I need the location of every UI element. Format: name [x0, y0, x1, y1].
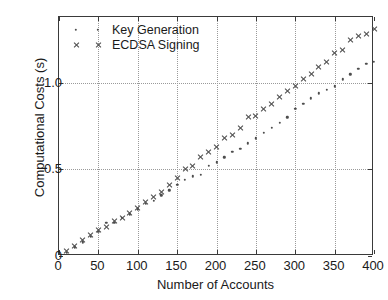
- data-point: [349, 73, 351, 75]
- x-tick-label: 250: [244, 258, 266, 273]
- data-point: [300, 76, 307, 83]
- x-axis-tick: [295, 17, 296, 21]
- y-axis-tick: [368, 169, 372, 170]
- data-point: [278, 121, 280, 123]
- gridline-horizontal: [59, 83, 372, 84]
- x-axis-tick: [335, 17, 336, 21]
- data-point: [333, 85, 335, 87]
- chart-figure: Key Generation ECDSA Signing Number of A…: [0, 0, 388, 300]
- x-tick-label: 350: [323, 258, 345, 273]
- data-point: [221, 135, 228, 142]
- data-point: [286, 116, 288, 118]
- y-axis-tick: [368, 256, 372, 257]
- x-axis-tick: [335, 250, 336, 254]
- x-tick-label: 400: [362, 258, 384, 273]
- gridline-horizontal: [59, 169, 372, 170]
- x-axis-tick: [177, 250, 178, 254]
- data-point: [182, 166, 189, 173]
- x-axis-tick: [374, 17, 375, 21]
- data-point: [294, 108, 296, 110]
- data-point: [347, 36, 354, 43]
- x-tick-label: 100: [126, 258, 148, 273]
- y-tick-label: 1.0: [44, 74, 62, 89]
- x-tick-label: 300: [283, 258, 305, 273]
- data-point: [252, 112, 259, 119]
- x-axis-tick: [98, 17, 99, 21]
- chart-legend: Key Generation ECDSA Signing: [66, 22, 200, 52]
- data-point: [318, 92, 320, 94]
- data-point: [268, 100, 275, 107]
- data-point: [71, 242, 78, 249]
- data-point: [247, 142, 249, 144]
- data-point: [323, 59, 330, 66]
- data-point: [150, 194, 157, 201]
- data-point: [231, 151, 233, 153]
- x-axis-tick: [138, 17, 139, 21]
- data-point: [126, 209, 133, 216]
- data-point: [276, 93, 283, 100]
- x-axis-tick: [177, 17, 178, 21]
- legend-dot-icon: [97, 28, 99, 30]
- x-axis-tick: [256, 250, 257, 254]
- data-point: [205, 149, 212, 156]
- gridline-vertical: [138, 17, 139, 254]
- data-point: [87, 232, 94, 239]
- gridline-vertical: [217, 17, 218, 254]
- legend-dot-icon: [75, 28, 77, 30]
- y-tick-label: 0: [55, 248, 62, 263]
- data-point: [310, 97, 312, 99]
- legend-marker-x: [66, 38, 112, 52]
- x-tick-label: 200: [205, 258, 227, 273]
- legend-x-icon: [95, 41, 102, 48]
- x-axis-tick: [98, 250, 99, 254]
- data-point: [315, 64, 322, 71]
- data-point: [339, 46, 346, 53]
- data-point: [200, 173, 202, 175]
- data-point: [176, 184, 178, 186]
- y-tick-label: 0.5: [44, 161, 62, 176]
- x-axis-title: Number of Accounts: [58, 277, 373, 292]
- data-point: [95, 227, 102, 234]
- x-axis-tick: [59, 17, 60, 21]
- x-axis-tick: [217, 17, 218, 21]
- data-point: [341, 78, 343, 80]
- data-point: [237, 124, 244, 131]
- x-tick-label: 50: [90, 258, 104, 273]
- x-axis-tick: [374, 250, 375, 254]
- data-point: [239, 147, 241, 149]
- legend-label-key-generation: Key Generation: [112, 23, 199, 37]
- data-point: [371, 26, 378, 33]
- legend-item-key-generation: Key Generation: [66, 22, 200, 37]
- data-point: [263, 132, 265, 134]
- y-axis-title: Computational Costs (s): [32, 8, 47, 248]
- data-point: [215, 161, 217, 163]
- x-axis-tick: [138, 250, 139, 254]
- data-point: [260, 105, 267, 112]
- data-point: [119, 214, 126, 221]
- data-point: [111, 218, 118, 225]
- legend-item-ecdsa-signing: ECDSA Signing: [66, 37, 200, 52]
- legend-label-ecdsa-signing: ECDSA Signing: [112, 38, 200, 52]
- data-point: [284, 88, 291, 95]
- data-point: [308, 71, 315, 78]
- x-axis-tick: [217, 250, 218, 254]
- data-point: [192, 175, 194, 177]
- legend-marker-dot: [66, 23, 112, 37]
- data-point: [373, 61, 375, 63]
- x-tick-label: 150: [165, 258, 187, 273]
- data-point: [189, 162, 196, 169]
- data-point: [229, 131, 236, 138]
- data-point: [255, 137, 257, 139]
- gridline-vertical: [98, 17, 99, 254]
- data-point: [302, 102, 304, 104]
- data-point: [270, 127, 272, 129]
- data-point: [207, 165, 209, 167]
- data-point: [363, 31, 370, 38]
- data-point: [158, 188, 165, 195]
- legend-x-icon: [73, 41, 80, 48]
- data-point: [331, 50, 338, 57]
- data-point: [103, 223, 110, 230]
- data-point: [213, 143, 220, 150]
- data-point: [197, 154, 204, 161]
- data-point: [292, 83, 299, 90]
